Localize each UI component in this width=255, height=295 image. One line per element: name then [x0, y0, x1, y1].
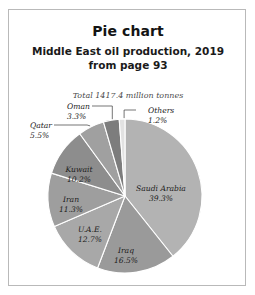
slice-label-value: 16.5%: [114, 256, 138, 265]
slice-label-name: Iran: [62, 195, 79, 204]
pie-chart-area: Saudi Arabia39.3%Iraq16.5%U.A.E.12.7%Ira…: [9, 10, 247, 287]
leader-line-others: [124, 110, 136, 118]
slice-label-value: 1.2%: [148, 116, 167, 125]
slice-label-name: Oman: [67, 102, 90, 111]
slice-label-value: 12.7%: [78, 235, 102, 244]
pie-chart-svg: Saudi Arabia39.3%Iraq16.5%U.A.E.12.7%Ira…: [9, 10, 247, 287]
slice-label-value: 5.5%: [30, 131, 49, 140]
slice-label-value: 11.3%: [59, 205, 83, 214]
chart-frame: Pie chart Middle East oil production, 20…: [8, 9, 246, 286]
pie-label-u-a-e: U.A.E.12.7%: [78, 225, 102, 244]
pie-label-qatar: Qatar5.5%: [30, 121, 52, 140]
pie-chart-page: Pie chart Middle East oil production, 20…: [0, 0, 255, 295]
slice-label-value: 39.3%: [149, 194, 173, 203]
slice-label-value: 3.3%: [67, 112, 86, 121]
pie-label-kuwait: Kuwait10.2%: [65, 165, 94, 184]
slice-label-name: Others: [148, 106, 174, 115]
pie-label-others: Others1.2%: [148, 106, 174, 125]
leader-line-oman: [92, 106, 112, 119]
slice-label-name: Saudi Arabia: [136, 184, 186, 193]
slice-label-name: U.A.E.: [78, 225, 102, 234]
slice-label-name: Iraq: [117, 246, 134, 255]
slice-label-name: Kuwait: [65, 165, 94, 174]
leader-line-qatar: [54, 125, 90, 126]
pie-label-oman: Oman3.3%: [67, 102, 90, 121]
slice-label-value: 10.2%: [67, 175, 91, 184]
slice-label-name: Qatar: [30, 121, 52, 130]
